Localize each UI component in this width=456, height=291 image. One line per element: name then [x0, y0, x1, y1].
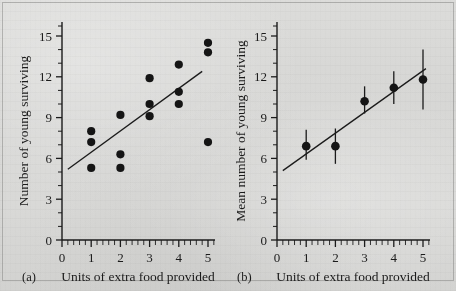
panel-a-y-tick-labels: 0 3 6 9 12 15	[39, 29, 53, 248]
panel-a-xtick-5: 5	[205, 250, 212, 265]
panel-a-data-points	[87, 39, 212, 172]
data-point	[116, 150, 124, 158]
panel-b-xtick-0: 0	[274, 250, 281, 265]
panel-b-x-axis-title: Units of extra food provided	[276, 269, 430, 284]
panel-a-scatter: 0 3 6 9 12 15 0 1 2 3 4 5 Number of youn…	[0, 0, 228, 291]
data-point	[331, 142, 340, 151]
panel-a-ytick-6: 6	[46, 151, 53, 166]
panel-a-label: (a)	[22, 270, 36, 284]
panel-a-xtick-2: 2	[117, 250, 124, 265]
panel-b-y-tick-labels: 0 3 6 9 12 15	[254, 29, 268, 248]
panel-a-xtick-1: 1	[88, 250, 95, 265]
panel-b-xtick-3: 3	[361, 250, 368, 265]
data-point	[116, 111, 124, 119]
data-point	[146, 100, 154, 108]
panel-b-svg: 0 3 6 9 12 15 0 1 2 3 4 5 Mean number of…	[228, 0, 456, 291]
panel-b-ytick-3: 3	[261, 192, 268, 207]
data-point	[204, 138, 212, 146]
data-point	[116, 164, 124, 172]
panel-a-xtick-0: 0	[59, 250, 66, 265]
panel-b-xtick-5: 5	[420, 250, 427, 265]
data-point	[390, 83, 399, 92]
panel-b-error-bars	[306, 50, 423, 164]
panel-a-ytick-3: 3	[46, 192, 53, 207]
data-point	[87, 138, 95, 146]
data-point	[302, 142, 311, 151]
data-point	[204, 48, 212, 56]
panel-a-ytick-15: 15	[39, 29, 52, 44]
panel-b-xtick-4: 4	[391, 250, 398, 265]
panel-a-x-tick-labels: 0 1 2 3 4 5	[59, 250, 212, 265]
panel-a-svg: 0 3 6 9 12 15 0 1 2 3 4 5 Number of youn…	[0, 0, 228, 291]
panel-a-regression-line	[68, 71, 202, 169]
panel-b-xtick-2: 2	[332, 250, 339, 265]
panel-b-label: (b)	[237, 270, 252, 284]
panel-b-ytick-6: 6	[261, 151, 268, 166]
data-point	[175, 100, 183, 108]
panel-b-xtick-1: 1	[303, 250, 310, 265]
panel-a-x-axis-title: Units of extra food provided	[61, 269, 215, 284]
panel-b-x-tick-labels: 0 1 2 3 4 5	[274, 250, 427, 265]
panel-a-xtick-3: 3	[146, 250, 153, 265]
data-point	[175, 88, 183, 96]
panel-a-ytick-12: 12	[39, 69, 52, 84]
panel-a-ytick-9: 9	[46, 110, 53, 125]
panel-a-y-major-ticks	[56, 36, 62, 240]
panel-b-x-major-ticks	[277, 240, 423, 247]
panel-a-x-major-ticks	[62, 240, 208, 247]
panel-a-ytick-0: 0	[46, 233, 53, 248]
panel-b-ytick-9: 9	[261, 110, 268, 125]
data-point	[146, 112, 154, 120]
figure-container: 0 3 6 9 12 15 0 1 2 3 4 5 Number of youn…	[0, 0, 456, 291]
data-point	[146, 74, 154, 82]
panel-b-x-minor-ticks	[283, 240, 429, 245]
panel-b-y-major-ticks	[271, 36, 277, 240]
panel-a-y-axis-title: Number of young surviving	[16, 56, 31, 207]
data-point	[360, 97, 369, 106]
panel-b-ytick-12: 12	[254, 69, 267, 84]
data-point	[419, 75, 428, 84]
panel-b-ytick-15: 15	[254, 29, 267, 44]
data-point	[204, 39, 212, 47]
panel-a-xtick-4: 4	[176, 250, 183, 265]
panel-a-x-minor-ticks	[68, 240, 214, 245]
panel-b-regression-line	[283, 69, 426, 171]
data-point	[175, 61, 183, 69]
panel-b-ytick-0: 0	[261, 233, 268, 248]
panel-b-scatter: 0 3 6 9 12 15 0 1 2 3 4 5 Mean number of…	[228, 0, 456, 291]
data-point	[87, 164, 95, 172]
panel-b-y-axis-title: Mean number of young surviving	[233, 40, 248, 222]
data-point	[87, 127, 95, 135]
